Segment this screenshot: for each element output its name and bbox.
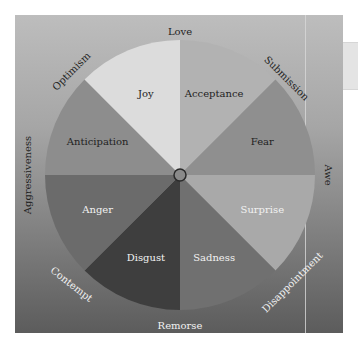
emotion-label-disgust: Disgust: [127, 252, 165, 263]
emotion-label-sadness: Sadness: [193, 252, 235, 263]
emotion-label-acceptance: Acceptance: [184, 88, 244, 99]
dyad-label-aggressiveness: Aggressiveness: [22, 136, 33, 215]
dyad-label-remorse: Remorse: [158, 320, 203, 331]
dyad-label-awe: Awe: [323, 163, 334, 185]
center-hub-icon: [174, 169, 186, 181]
emotion-wheel: AcceptanceFearSurpriseSadnessDisgustAnge…: [0, 0, 358, 350]
emotion-label-anger: Anger: [81, 204, 113, 215]
emotion-label-anticipation: Anticipation: [66, 136, 129, 147]
emotion-label-joy: Joy: [137, 88, 154, 99]
emotion-label-surprise: Surprise: [241, 204, 285, 215]
dyad-label-love: Love: [168, 26, 192, 37]
emotion-label-fear: Fear: [251, 136, 274, 147]
